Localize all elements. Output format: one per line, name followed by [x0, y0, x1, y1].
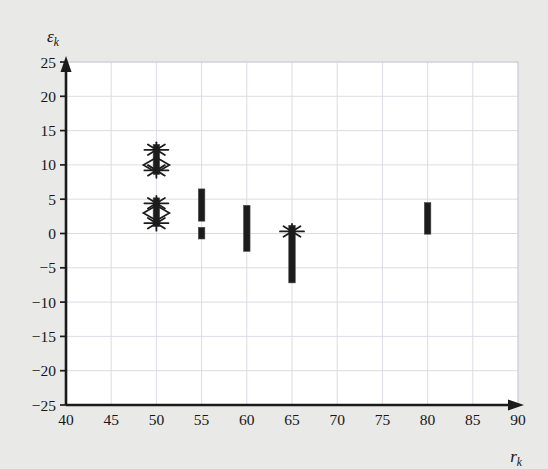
- x-tick-label: 80: [420, 411, 436, 428]
- point-cluster-bar: [244, 205, 251, 251]
- x-tick-label: 75: [375, 411, 391, 428]
- y-tick-label: −10: [32, 294, 56, 311]
- point-cluster-bar: [198, 227, 205, 239]
- x-tick-label: 40: [58, 411, 74, 428]
- asterisk-marker: [280, 224, 304, 239]
- residual-scatter-chart: 2520151050−5−10−15−20−25 404550556065707…: [0, 0, 548, 469]
- data-group: [424, 203, 431, 235]
- x-tick-label: 50: [149, 411, 165, 428]
- point-cluster-bar: [198, 189, 205, 221]
- y-tick-label: 0: [48, 225, 56, 242]
- point-cluster-bar: [424, 203, 431, 235]
- y-tick-label: 25: [41, 54, 57, 71]
- y-tick-label: −25: [32, 397, 56, 414]
- asterisk-marker: [144, 196, 168, 211]
- y-tick-label: 15: [41, 122, 57, 139]
- y-tick-label: −15: [32, 328, 56, 345]
- y-tick-label: 5: [48, 191, 56, 208]
- asterisk-marker: [144, 163, 168, 178]
- x-tick-label: 60: [239, 411, 255, 428]
- asterisk-marker: [144, 142, 168, 157]
- y-tick-label: 10: [41, 156, 57, 173]
- data-group: [198, 189, 205, 239]
- x-tick-label: 55: [194, 411, 210, 428]
- x-tick-label: 90: [510, 411, 526, 428]
- x-tick-label: 70: [329, 411, 345, 428]
- y-tick-label: −5: [40, 259, 57, 276]
- data-group: [244, 205, 251, 251]
- x-tick-label: 85: [465, 411, 481, 428]
- asterisk-marker: [144, 216, 168, 231]
- x-tick-label: 65: [284, 411, 300, 428]
- y-tick-label: 20: [41, 88, 57, 105]
- x-tick-label: 45: [103, 411, 119, 428]
- y-tick-label: −20: [32, 362, 56, 379]
